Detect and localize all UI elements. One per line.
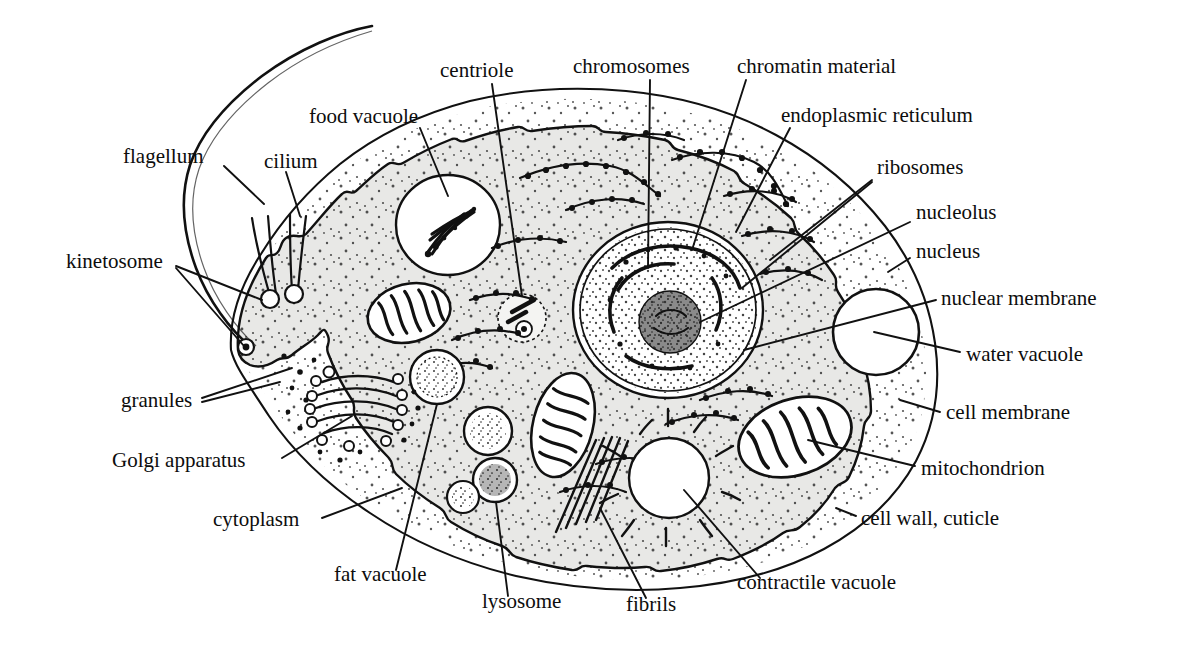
nucleolus-organelle bbox=[639, 291, 701, 353]
label-chromosomes: chromosomes bbox=[573, 56, 690, 77]
leader-flagellum bbox=[224, 166, 264, 204]
label-chromatin-material: chromatin material bbox=[737, 56, 896, 77]
label-fibrils: fibrils bbox=[626, 594, 676, 615]
lysosome-organelle-3 bbox=[447, 481, 479, 513]
label-nucleus: nucleus bbox=[916, 241, 980, 262]
fat-vacuole-organelle bbox=[410, 350, 464, 404]
label-centriole: centriole bbox=[440, 60, 513, 81]
label-endoplasmic-reticulum: endoplasmic reticulum bbox=[781, 105, 973, 126]
cell-illustration bbox=[0, 0, 1181, 650]
label-cell-wall-cuticle: cell wall, cuticle bbox=[861, 508, 999, 529]
label-granules: granules bbox=[121, 390, 192, 411]
label-golgi-apparatus: Golgi apparatus bbox=[112, 450, 246, 471]
food-vacuole-organelle bbox=[396, 175, 500, 275]
label-flagellum: flagellum bbox=[123, 146, 203, 167]
label-nuclear-membrane: nuclear membrane bbox=[941, 288, 1097, 309]
label-kinetosome: kinetosome bbox=[66, 251, 163, 272]
label-cilium: cilium bbox=[264, 151, 318, 172]
lysosome-organelle-1 bbox=[464, 407, 512, 455]
label-contractile-vacuole: contractile vacuole bbox=[737, 572, 896, 593]
label-food-vacuole: food vacuole bbox=[309, 106, 418, 127]
label-ribosomes: ribosomes bbox=[877, 157, 963, 178]
label-nucleolus: nucleolus bbox=[916, 202, 996, 223]
label-mitochondrion: mitochondrion bbox=[921, 458, 1045, 479]
cell-diagram-figure: flagellum cilium food vacuole centriole … bbox=[0, 0, 1181, 650]
centriole-organelle bbox=[498, 294, 546, 342]
label-fat-vacuole: fat vacuole bbox=[334, 564, 427, 585]
label-water-vacuole: water vacuole bbox=[966, 344, 1083, 365]
label-cell-membrane: cell membrane bbox=[946, 402, 1070, 423]
label-cytoplasm: cytoplasm bbox=[213, 509, 299, 530]
label-lysosome: lysosome bbox=[482, 591, 561, 612]
